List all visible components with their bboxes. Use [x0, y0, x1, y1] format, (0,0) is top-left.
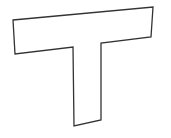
t-shape-outline	[13, 7, 153, 126]
t-shape-canvas	[0, 0, 171, 138]
